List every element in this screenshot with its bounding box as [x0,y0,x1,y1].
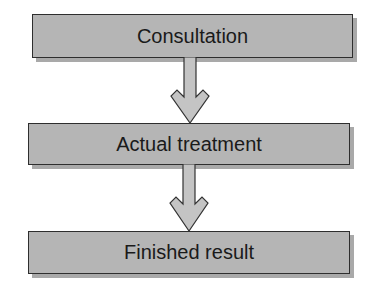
down-arrow-icon [167,164,211,233]
step-label: Consultation [137,25,248,48]
down-arrow-icon [168,57,212,125]
step-label: Actual treatment [116,133,262,156]
step-finished-result: Finished result [28,231,350,274]
step-actual-treatment: Actual treatment [28,123,350,165]
step-consultation: Consultation [32,14,353,58]
step-label: Finished result [124,241,254,264]
